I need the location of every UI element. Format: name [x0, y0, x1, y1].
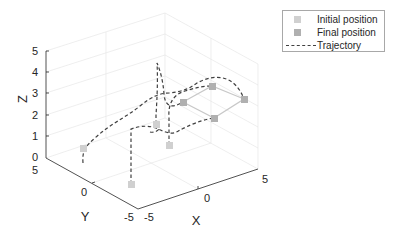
- svg-text:0: 0: [32, 151, 38, 163]
- legend: Initial position Final position Trajecto…: [282, 10, 385, 52]
- svg-text:0: 0: [204, 192, 210, 204]
- axis-labels: Z Y X: [15, 95, 201, 228]
- svg-text:5: 5: [32, 164, 38, 176]
- legend-item-trajectory: Trajectory: [283, 39, 384, 52]
- dashed-line-icon: [286, 45, 316, 46]
- svg-text:2: 2: [32, 109, 38, 121]
- legend-label: Initial position: [317, 13, 378, 26]
- square-marker-icon: [294, 16, 301, 23]
- svg-text:3: 3: [32, 87, 38, 99]
- svg-text:5: 5: [32, 45, 38, 57]
- legend-label: Final position: [317, 26, 376, 39]
- trajectories: [83, 63, 244, 184]
- svg-text:X: X: [192, 213, 201, 228]
- svg-text:5: 5: [262, 173, 268, 185]
- svg-text:-5: -5: [124, 211, 134, 223]
- svg-text:Y: Y: [81, 209, 90, 224]
- svg-text:0: 0: [81, 186, 87, 198]
- svg-text:Z: Z: [15, 95, 30, 103]
- legend-item-initial: Initial position: [283, 13, 384, 26]
- legend-label: Trajectory: [317, 39, 361, 52]
- legend-item-final: Final position: [283, 26, 384, 39]
- y-axis-line: [46, 158, 138, 209]
- gridlines: [46, 13, 258, 189]
- axes: [46, 51, 258, 209]
- svg-text:4: 4: [32, 66, 38, 78]
- square-marker-icon: [294, 29, 301, 36]
- svg-text:-5: -5: [144, 211, 154, 223]
- x-tick-labels: -5 0 5: [144, 173, 268, 223]
- svg-text:1: 1: [32, 130, 38, 142]
- z-tick-labels: 5 4 3 2 1 0: [32, 45, 38, 163]
